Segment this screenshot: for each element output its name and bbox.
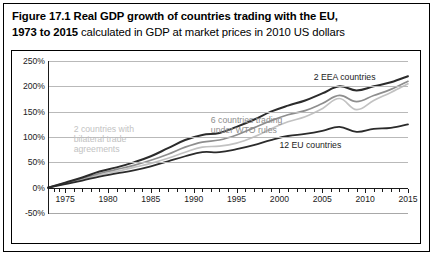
- y-tick-label: 0%: [33, 183, 45, 193]
- annotation-eu-countries: 12 EU countries: [279, 140, 341, 150]
- x-tick-minor: [99, 189, 100, 192]
- x-tick-minor: [228, 189, 229, 192]
- y-tick-label: 250%: [23, 56, 45, 66]
- x-tick-label: 1990: [184, 194, 203, 204]
- annotation-line: bilateral trade: [74, 134, 134, 144]
- x-tick-minor: [331, 189, 332, 192]
- x-tick-minor: [391, 189, 392, 192]
- annotation-line: under WTO rules: [211, 125, 282, 135]
- x-tick-label: 1995: [227, 194, 246, 204]
- caption-line-2-regular: calculated in GDP at market prices in 20…: [78, 26, 345, 38]
- x-tick-label: 2005: [313, 194, 332, 204]
- x-tick-major: [151, 189, 152, 193]
- x-tick-major: [194, 189, 195, 193]
- x-tick-minor: [305, 189, 306, 192]
- x-tick-minor: [168, 189, 169, 192]
- x-tick-minor: [202, 189, 203, 192]
- caption-line-1: Figure 17.1 Real GDP growth of countries…: [12, 10, 338, 22]
- y-tick-label: 100%: [23, 132, 45, 142]
- annotation-line: 12 EU countries: [279, 140, 341, 150]
- annotation-line: 2 countries with: [74, 124, 134, 134]
- x-tick-major: [65, 189, 66, 193]
- gridline: [48, 162, 408, 163]
- annotation-line: agreements: [74, 144, 134, 154]
- x-axis-tick-labels: 197519801985199019952000200520102015: [48, 194, 408, 206]
- y-tick-label: 50%: [28, 157, 45, 167]
- x-tick-minor: [245, 189, 246, 192]
- x-tick-minor: [271, 189, 272, 192]
- x-tick-minor: [374, 189, 375, 192]
- x-tick-minor: [219, 189, 220, 192]
- x-tick-minor: [59, 189, 60, 192]
- annotation-line: 6 countries trading: [211, 115, 282, 125]
- x-tick-label: 1980: [98, 194, 117, 204]
- y-tick-label: -50%: [25, 208, 45, 218]
- x-tick-minor: [159, 189, 160, 192]
- x-tick-major: [108, 189, 109, 193]
- figure-container: Figure 17.1 Real GDP growth of countries…: [0, 0, 433, 255]
- x-tick-minor: [82, 189, 83, 192]
- y-tick-label: 150%: [23, 107, 45, 117]
- x-tick-minor: [314, 189, 315, 192]
- x-tick-label: 2010: [356, 194, 375, 204]
- x-tick-minor: [262, 189, 263, 192]
- annotation-line: 2 EEA countries: [314, 72, 376, 82]
- chart-plot-frame: 250%200%150%100%50%0%-50% 2 EEA countrie…: [11, 50, 421, 244]
- x-tick-minor: [142, 189, 143, 192]
- x-tick-minor: [74, 189, 75, 192]
- x-tick-major: [365, 189, 366, 193]
- x-tick-label: 1975: [56, 194, 75, 204]
- annotation-bilateral-trade: 2 countries withbilateral tradeagreement…: [74, 124, 134, 155]
- y-tick-label: 200%: [23, 81, 45, 91]
- x-tick-minor: [399, 189, 400, 192]
- x-tick-minor: [288, 189, 289, 192]
- x-tick-minor: [382, 189, 383, 192]
- gridline-baseline: [48, 213, 408, 214]
- caption-line-2-bold: 1973 to 2015: [12, 26, 78, 38]
- x-tick-minor: [348, 189, 349, 192]
- x-tick-minor: [91, 189, 92, 192]
- x-tick-minor: [211, 189, 212, 192]
- annotation-eea-countries: 2 EEA countries: [314, 72, 376, 82]
- gridline: [48, 61, 408, 62]
- x-tick-minor: [339, 189, 340, 192]
- x-tick-label: 1985: [141, 194, 160, 204]
- x-tick-major: [237, 189, 238, 193]
- x-tick-minor: [254, 189, 255, 192]
- x-tick-minor: [134, 189, 135, 192]
- x-tick-minor: [185, 189, 186, 192]
- gridline: [48, 86, 408, 87]
- x-tick-label: 2015: [398, 194, 417, 204]
- x-tick-minor: [117, 189, 118, 192]
- y-axis-tick-labels: 250%200%150%100%50%0%-50%: [12, 61, 45, 213]
- x-tick-major: [322, 189, 323, 193]
- x-tick-minor: [125, 189, 126, 192]
- annotation-wto-rules: 6 countries tradingunder WTO rules: [211, 115, 282, 135]
- x-tick-minor: [357, 189, 358, 192]
- x-tick-minor: [54, 189, 55, 192]
- x-tick-minor: [177, 189, 178, 192]
- gridline: [48, 112, 408, 113]
- x-tick-label: 2000: [270, 194, 289, 204]
- x-tick-minor: [297, 189, 298, 192]
- x-tick-major: [408, 189, 409, 193]
- x-tick-major: [279, 189, 280, 193]
- figure-caption: Figure 17.1 Real GDP growth of countries…: [12, 9, 420, 40]
